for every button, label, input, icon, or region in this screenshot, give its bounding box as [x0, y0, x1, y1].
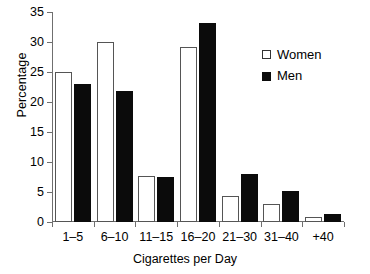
y-tick-label-25: 25: [4, 66, 44, 79]
y-tick-label-0: 0: [4, 216, 44, 229]
y-tick-label-30: 30: [4, 36, 44, 49]
y-tick-label-10: 10: [4, 156, 44, 169]
bar-women-+40: [305, 217, 322, 222]
bar-men-1–5: [74, 84, 91, 222]
legend-swatch-men-icon: [262, 72, 271, 81]
legend-swatch-women-icon: [262, 50, 271, 59]
y-tick-35: [47, 12, 52, 13]
y-tick-20: [47, 102, 52, 103]
legend-item-women: Women: [262, 44, 322, 65]
x-category-label-6: +40: [283, 230, 363, 244]
bar-women-6–10: [97, 42, 114, 222]
y-tick-25: [47, 72, 52, 73]
bar-women-11–15: [138, 176, 155, 222]
bar-women-16–20: [180, 47, 197, 222]
y-axis-tick-labels: 05101520253035: [4, 12, 44, 222]
x-tick-3: [177, 222, 178, 227]
bar-group: [97, 42, 133, 222]
bar-women-31–40: [263, 204, 280, 222]
bar-group: [180, 23, 216, 222]
x-tick-1: [94, 222, 95, 227]
bar-group: [222, 174, 258, 222]
bar-group: [263, 191, 299, 222]
x-tick-4: [219, 222, 220, 227]
y-axis-line: [52, 12, 53, 222]
y-tick-10: [47, 162, 52, 163]
bar-men-21–30: [241, 174, 258, 222]
y-tick-30: [47, 42, 52, 43]
legend-label-men: Men: [277, 65, 302, 86]
x-tick-6: [302, 222, 303, 227]
bar-women-1–5: [55, 72, 72, 222]
y-tick-label-20: 20: [4, 96, 44, 109]
x-tick-7: [344, 222, 345, 227]
y-tick-5: [47, 192, 52, 193]
y-tick-label-15: 15: [4, 126, 44, 139]
x-tick-5: [261, 222, 262, 227]
bar-group: [138, 176, 174, 222]
legend-item-men: Men: [262, 65, 322, 86]
x-tick-2: [135, 222, 136, 227]
x-axis-title: Cigarettes per Day: [0, 252, 370, 266]
y-tick-label-35: 35: [4, 6, 44, 19]
bar-women-21–30: [222, 196, 239, 222]
bar-men-11–15: [157, 177, 174, 222]
legend-label-women: Women: [277, 44, 322, 65]
legend: Women Men: [262, 44, 322, 87]
bar-men-16–20: [199, 23, 216, 222]
bar-men-6–10: [116, 91, 133, 222]
y-tick-15: [47, 132, 52, 133]
bar-group: [305, 214, 341, 222]
bar-chart: Percentage 05101520253035 1–56–1011–1516…: [0, 0, 370, 274]
y-tick-label-5: 5: [4, 186, 44, 199]
bar-group: [55, 72, 91, 222]
bar-men-31–40: [282, 191, 299, 222]
bar-men-+40: [324, 214, 341, 222]
x-tick-0: [52, 222, 53, 227]
